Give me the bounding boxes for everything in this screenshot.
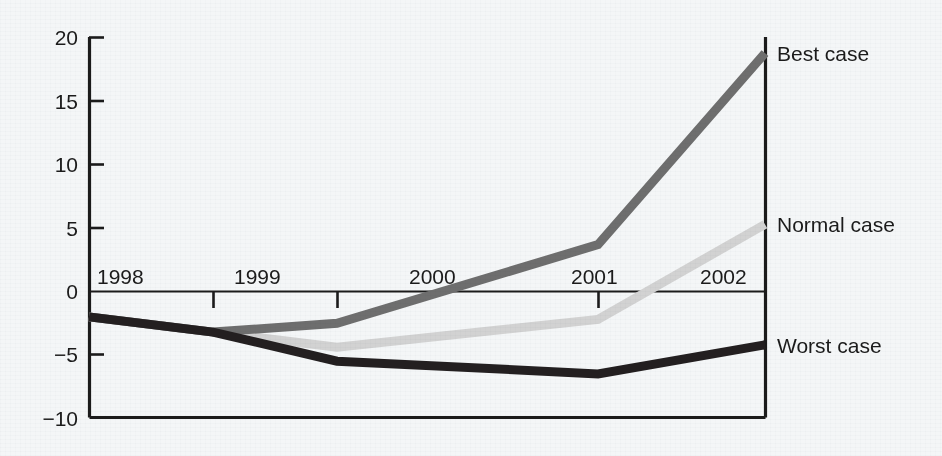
x-axis-tick-labels: 1998 1999 2000 2001 2002 xyxy=(97,265,747,288)
y-tick-label-20: 20 xyxy=(55,26,78,49)
chart-container: 20 15 10 5 0 −5 −10 1998 1999 2000 2001 … xyxy=(0,0,942,456)
series-line-worst-case xyxy=(89,317,765,374)
y-axis-tick-labels: 20 15 10 5 0 −5 −10 xyxy=(42,26,78,430)
x-tick-label-2000: 2000 xyxy=(409,265,456,288)
y-tick-label-0: 0 xyxy=(66,280,78,303)
legend-label-best-case: Best case xyxy=(777,42,869,65)
x-tick-label-1999: 1999 xyxy=(234,265,281,288)
legend: Best case Normal case Worst case xyxy=(777,42,895,357)
y-axis-ticks xyxy=(89,38,104,355)
y-tick-label-minus5: −5 xyxy=(54,343,78,366)
line-chart-plot: 20 15 10 5 0 −5 −10 1998 1999 2000 2001 … xyxy=(0,0,942,456)
y-tick-label-5: 5 xyxy=(66,217,78,240)
x-tick-label-2002: 2002 xyxy=(700,265,747,288)
y-tick-label-15: 15 xyxy=(55,90,78,113)
y-tick-label-10: 10 xyxy=(55,153,78,176)
series-line-best-case xyxy=(89,53,765,332)
x-tick-label-2001: 2001 xyxy=(571,265,618,288)
series-lines xyxy=(89,53,765,374)
legend-label-worst-case: Worst case xyxy=(777,334,882,357)
x-tick-label-1998: 1998 xyxy=(97,265,144,288)
y-tick-label-minus10: −10 xyxy=(42,407,78,430)
legend-label-normal-case: Normal case xyxy=(777,213,895,236)
